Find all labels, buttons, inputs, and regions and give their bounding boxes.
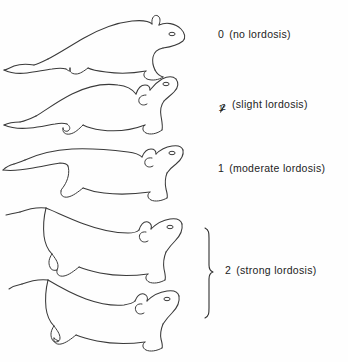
score-value-2: 2 (225, 264, 231, 276)
rat-strong-lordosis-lower (9, 280, 179, 351)
rat-moderate-lordosis (3, 146, 183, 201)
lordosis-rating-figure: 0(no lordosis) 12(slight lordosis) 1(mod… (0, 0, 348, 362)
score-description-half: (slight lordosis) (232, 98, 308, 110)
label-score-half: 12(slight lordosis) (218, 98, 308, 112)
score-description-2: (strong lordosis) (236, 264, 316, 276)
rat-strong-lordosis-upper (6, 208, 182, 283)
rat-line-drawings (0, 0, 348, 362)
rat-slight-lordosis (4, 77, 178, 134)
fraction-denominator: 2 (219, 104, 228, 112)
label-score-0: 0(no lordosis) (218, 28, 291, 40)
brace-strong-lordosis (205, 228, 213, 318)
score-value-1: 1 (218, 162, 224, 174)
score-value-0: 0 (218, 28, 224, 40)
rat-no-lordosis (4, 15, 185, 80)
label-score-1: 1(moderate lordosis) (218, 162, 325, 174)
fraction-one-half: 12 (218, 105, 227, 112)
score-description-0: (no lordosis) (229, 28, 291, 40)
label-score-2: 2(strong lordosis) (225, 264, 317, 276)
score-description-1: (moderate lordosis) (229, 162, 325, 174)
